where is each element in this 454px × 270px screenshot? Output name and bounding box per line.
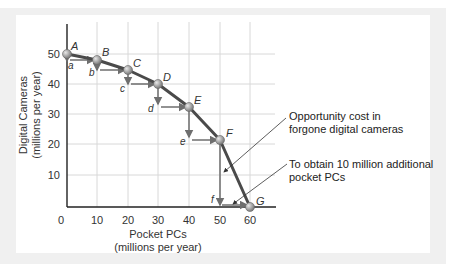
step-label-e: e: [180, 136, 186, 147]
point-label-f: F: [226, 127, 234, 139]
point-label-g: G: [256, 195, 265, 207]
point-b-marker: [93, 56, 102, 65]
x-tick-labels: 0 10 20 30 40 50 60: [58, 214, 256, 226]
x-axis-units: (millions per year): [114, 241, 201, 253]
x-tick-20: 20: [122, 214, 134, 226]
point-e-marker: [185, 103, 194, 112]
x-tick-50: 50: [214, 214, 226, 226]
y-axis-units: (millions per year): [30, 71, 42, 158]
point-f-marker: [216, 136, 225, 145]
point-label-b: B: [102, 46, 109, 58]
point-label-c: C: [133, 57, 141, 69]
x-tick-10: 10: [91, 214, 103, 226]
point-c-marker: [124, 66, 133, 75]
x-tick-0: 0: [58, 214, 64, 226]
x-tick-60: 60: [244, 214, 256, 226]
x-tick-40: 40: [183, 214, 195, 226]
y-tick-10: 10: [48, 169, 60, 181]
point-d-marker: [154, 80, 163, 89]
axes: [67, 24, 276, 207]
point-g-marker: [246, 203, 255, 212]
ppf-chart: 50 40 30 20 10 0 10 20 30 40 50 60 Pocke…: [0, 0, 454, 270]
annotation-opportunity-cost-line2: forgone digital cameras: [289, 123, 404, 135]
annotations: Opportunity cost in forgone digital came…: [289, 110, 433, 183]
step-labels: a b c d e f: [68, 60, 215, 205]
y-tick-20: 20: [48, 138, 60, 150]
step-label-d: d: [148, 103, 154, 114]
y-axis-label: Digital Cameras: [17, 75, 29, 154]
annotation-obtain-line1: To obtain 10 million additional: [289, 158, 433, 170]
y-tick-labels: 50 40 30 20 10: [48, 48, 60, 181]
point-label-a: A: [70, 40, 78, 52]
annotation-opportunity-cost-line1: Opportunity cost in: [289, 110, 381, 122]
annotation-leaders: [224, 118, 287, 204]
y-tick-50: 50: [48, 48, 60, 60]
y-tick-40: 40: [48, 78, 60, 90]
step-label-f: f: [211, 194, 215, 205]
step-label-a: a: [68, 60, 74, 71]
x-tick-30: 30: [152, 214, 164, 226]
step-label-c: c: [120, 83, 125, 94]
point-labels: A B C D E F G: [70, 40, 265, 207]
grid-lines: [67, 22, 275, 207]
y-tick-30: 30: [48, 108, 60, 120]
annotation-obtain-line2: pocket PCs: [289, 171, 346, 183]
x-axis-label: Pocket PCs: [129, 228, 187, 240]
point-label-d: D: [163, 71, 171, 83]
step-label-b: b: [89, 67, 95, 78]
point-label-e: E: [194, 94, 202, 106]
